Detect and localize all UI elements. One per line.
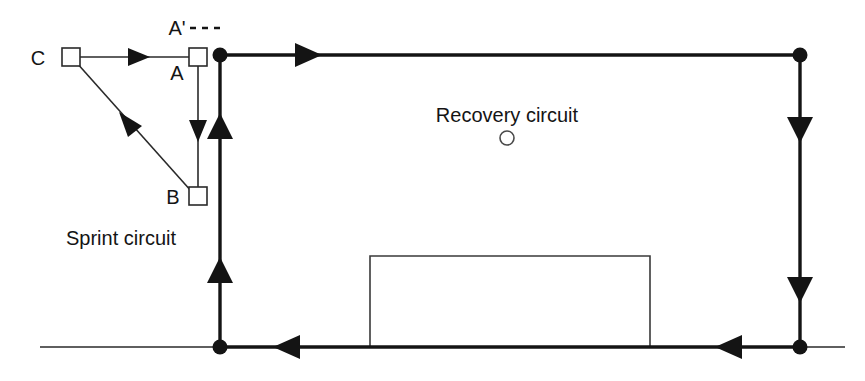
- label-node-a: A: [170, 62, 184, 84]
- sprint-station-box-a: [189, 48, 207, 66]
- recovery-node-top-right: [793, 48, 808, 63]
- flow-arrow-bottom-left-1: [715, 335, 742, 359]
- flow-arrow-top-right: [295, 43, 322, 67]
- sprint-circuit-group: [62, 28, 222, 205]
- sprint-arrow-c-to-a: [128, 48, 150, 66]
- circuit-diagram-svg: C A A' B Sprint circuit Recovery circuit: [0, 0, 865, 381]
- label-node-a-prime: A': [168, 17, 185, 39]
- flow-arrow-left-up-2: [207, 257, 233, 283]
- building-outline: [370, 256, 650, 347]
- label-node-c: C: [31, 47, 45, 69]
- flow-arrow-right-down-2: [787, 277, 813, 303]
- building-outline-group: [370, 256, 650, 347]
- sprint-station-box-c: [62, 48, 80, 66]
- label-sprint-circuit: Sprint circuit: [66, 227, 176, 249]
- flow-arrow-bottom-left-2: [273, 335, 300, 359]
- recovery-circuit-marker-icon: [500, 131, 514, 145]
- diagram-canvas: C A A' B Sprint circuit Recovery circuit: [0, 0, 865, 381]
- flow-arrow-right-down-1: [787, 117, 813, 143]
- recovery-circuit-group: [207, 43, 813, 359]
- label-recovery-circuit: Recovery circuit: [436, 104, 579, 126]
- sprint-arrow-a-to-b: [189, 120, 207, 142]
- label-node-b: B: [166, 186, 179, 208]
- recovery-node-top-left: [213, 48, 228, 63]
- sprint-station-box-b: [189, 187, 207, 205]
- flow-arrow-left-up-1: [207, 113, 233, 139]
- recovery-node-bottom-right: [793, 340, 808, 355]
- recovery-node-bottom-left: [213, 340, 228, 355]
